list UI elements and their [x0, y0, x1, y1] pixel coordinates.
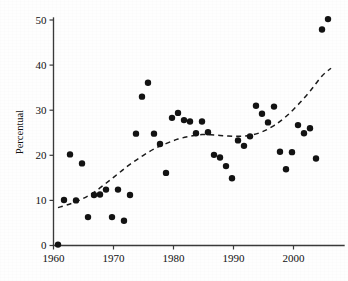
- data-point: [283, 166, 289, 172]
- data-point: [235, 137, 241, 143]
- trend-line-dashed: [58, 68, 331, 207]
- y-axis: 01020304050: [36, 14, 54, 252]
- data-point: [253, 102, 259, 108]
- data-point: [121, 217, 127, 223]
- y-tick-label: 50: [36, 14, 48, 26]
- data-point: [319, 26, 325, 32]
- data-point: [151, 130, 157, 136]
- data-point: [91, 192, 97, 198]
- data-point: [325, 16, 331, 22]
- data-point: [79, 160, 85, 166]
- x-tick-label: 1990: [223, 252, 246, 264]
- data-point: [289, 149, 295, 155]
- data-point: [211, 152, 217, 158]
- data-point: [67, 151, 73, 157]
- data-point: [73, 197, 79, 203]
- data-point: [187, 118, 193, 124]
- y-tick-label: 40: [36, 59, 48, 71]
- data-point: [97, 191, 103, 197]
- x-tick-label: 2000: [283, 252, 306, 264]
- y-tick-label: 10: [36, 194, 48, 206]
- y-tick-label: 20: [36, 149, 48, 161]
- data-point: [169, 115, 175, 121]
- data-point: [139, 93, 145, 99]
- y-axis-title: Percentual: [14, 110, 25, 154]
- data-point: [145, 79, 151, 85]
- data-point: [313, 155, 319, 161]
- data-point: [241, 143, 247, 149]
- x-tick-label: 1960: [43, 252, 66, 264]
- data-point: [175, 110, 181, 116]
- data-point: [103, 186, 109, 192]
- data-point: [157, 141, 163, 147]
- data-point: [205, 129, 211, 135]
- data-point: [229, 175, 235, 181]
- data-point: [259, 111, 265, 117]
- data-point: [85, 214, 91, 220]
- data-point: [307, 125, 313, 131]
- data-point: [109, 214, 115, 220]
- data-point: [61, 197, 67, 203]
- data-points: [55, 16, 331, 248]
- scatter-plot: 01020304050 19601970198019902000 Percent…: [0, 0, 348, 281]
- data-point: [163, 170, 169, 176]
- data-point: [217, 154, 223, 160]
- chart-container: 01020304050 19601970198019902000 Percent…: [0, 0, 348, 281]
- x-tick-label: 1980: [163, 252, 186, 264]
- x-tick-label: 1970: [103, 252, 126, 264]
- data-point: [223, 163, 229, 169]
- data-point: [301, 130, 307, 136]
- y-tick-label: 0: [41, 239, 47, 251]
- data-point: [247, 133, 253, 139]
- data-point: [115, 186, 121, 192]
- data-point: [55, 241, 61, 247]
- data-point: [193, 130, 199, 136]
- data-point: [277, 148, 283, 154]
- y-tick-label: 30: [36, 104, 48, 116]
- data-point: [127, 192, 133, 198]
- data-point: [265, 119, 271, 125]
- data-point: [199, 118, 205, 124]
- data-point: [271, 103, 277, 109]
- data-point: [181, 117, 187, 123]
- data-point: [295, 122, 301, 128]
- data-point: [133, 130, 139, 136]
- x-axis: 19601970198019902000: [43, 246, 345, 264]
